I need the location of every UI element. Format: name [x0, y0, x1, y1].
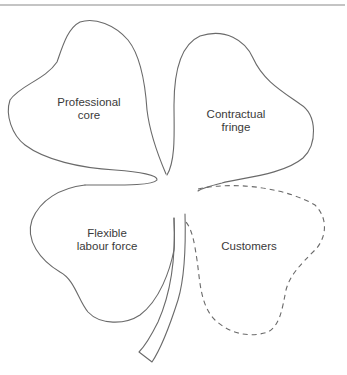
shamrock-diagram [0, 0, 347, 375]
label-line-2: fringe [207, 121, 266, 134]
label-line-2: core [57, 109, 120, 122]
label-line-1: Flexible [77, 227, 138, 240]
label-line-1: Professional [57, 96, 120, 109]
label-line-1: Contractual [207, 108, 266, 121]
leaf-customers [186, 186, 324, 335]
label-customers: Customers [221, 240, 277, 253]
stem [139, 214, 185, 362]
label-contractual-fringe: Contractual fringe [207, 108, 266, 134]
label-line-1: Customers [221, 240, 277, 253]
label-flexible-labour-force: Flexible labour force [77, 227, 138, 253]
leaf-flexible-labour-force [30, 185, 174, 322]
label-line-2: labour force [77, 240, 138, 253]
label-professional-core: Professional core [57, 96, 120, 122]
